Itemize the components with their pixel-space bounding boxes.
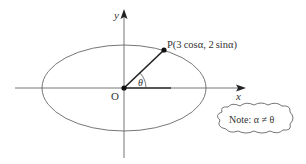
origin-label: O [111,90,119,102]
theta-label: θ [138,77,143,88]
point-p-label: P(3 cosα, 2 sinα) [167,39,238,51]
note-text: Note: α ≠ θ [229,114,274,125]
x-axis-label: x [235,90,241,102]
ellipse-diagram: y x O θ P(3 cosα, 2 sinα) Note: α ≠ θ [0,0,306,164]
origin-point [121,85,126,90]
op-segment [124,50,164,88]
y-axis-label: y [113,9,119,21]
point-p [161,47,166,52]
